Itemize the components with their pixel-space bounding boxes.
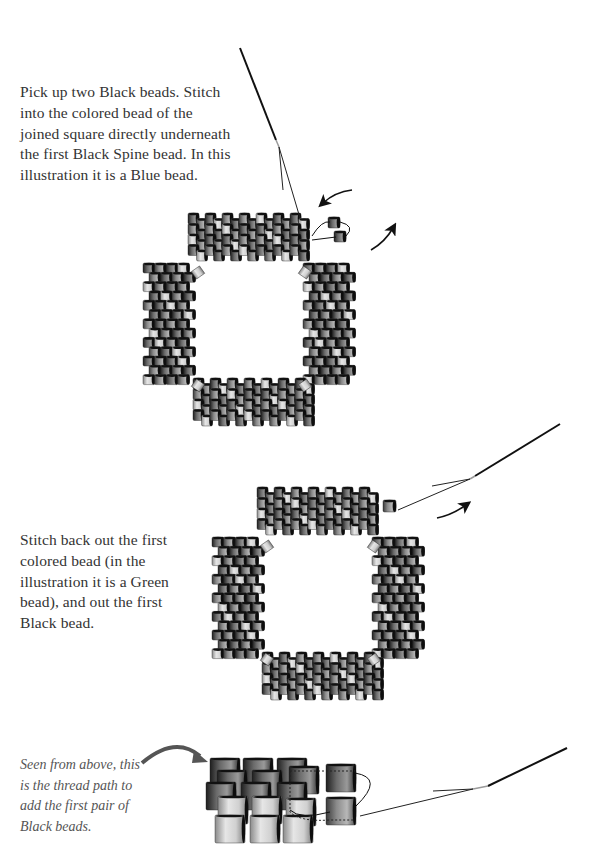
needle-icon [360, 748, 567, 816]
bead-square-illustration-1 [143, 213, 356, 426]
thread-path-detail-illustration [206, 758, 370, 843]
bead-square-illustration-2 [212, 487, 425, 700]
curved-arrow-icon [142, 747, 208, 763]
arrow-icon [437, 505, 466, 518]
illustrations [0, 0, 590, 865]
needle-icon [240, 48, 300, 218]
needle-icon [398, 424, 560, 510]
